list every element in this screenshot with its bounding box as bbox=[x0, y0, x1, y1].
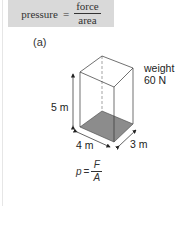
equation-fraction: F A bbox=[91, 160, 102, 183]
top-face bbox=[80, 56, 133, 87]
weight-annotation: weight 60 N bbox=[144, 62, 174, 86]
equation-equals: = bbox=[84, 166, 90, 177]
height-label: 5 m bbox=[51, 101, 69, 113]
width-label: 4 m bbox=[76, 139, 94, 151]
weight-value: 60 N bbox=[144, 74, 174, 86]
weight-label: weight bbox=[144, 62, 174, 74]
depth-label: 3 m bbox=[130, 138, 148, 150]
equation-numerator: F bbox=[92, 160, 102, 170]
equation-denominator: A bbox=[91, 173, 102, 183]
pressure-equation: p = F A bbox=[76, 160, 102, 183]
equation-lhs: p bbox=[76, 166, 82, 177]
